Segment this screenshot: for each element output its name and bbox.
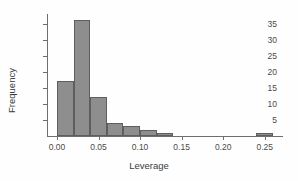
histogram-bar — [107, 123, 124, 136]
x-axis-title-text: Leverage — [129, 160, 169, 171]
x-tick-label: 0.10 — [132, 143, 149, 152]
y-axis-title: Frequency — [4, 0, 18, 181]
y-tick-mark — [43, 56, 47, 57]
y-tick-label: 20 — [268, 68, 277, 77]
y-tick-mark — [43, 72, 47, 73]
x-tick-label: 0.15 — [173, 143, 190, 152]
y-tick-mark — [43, 40, 47, 41]
x-tick-label: 0.05 — [90, 143, 107, 152]
x-tick-mark — [265, 136, 266, 140]
x-tick-mark — [57, 136, 58, 140]
x-tick-label: 0.20 — [215, 143, 232, 152]
y-tick-mark — [43, 104, 47, 105]
plot-area: 5101520253035 — [47, 14, 283, 136]
y-tick-label: 35 — [268, 19, 277, 28]
histogram-bar — [90, 97, 107, 136]
x-axis-ticks: 0.000.050.100.150.200.25 — [47, 136, 283, 137]
y-tick-mark — [43, 24, 47, 25]
y-tick-label: 5 — [272, 116, 277, 125]
x-tick-mark — [223, 136, 224, 140]
y-axis-title-text: Frequency — [6, 68, 17, 113]
histogram-bar — [57, 81, 74, 136]
histogram-bar — [123, 126, 140, 136]
histogram-bar — [74, 20, 91, 136]
y-tick-label: 15 — [268, 84, 277, 93]
x-tick-mark — [182, 136, 183, 140]
bars-container — [47, 14, 283, 136]
y-tick-label: 10 — [268, 100, 277, 109]
x-tick-mark — [140, 136, 141, 140]
x-axis-title: Leverage — [0, 160, 298, 171]
x-tick-mark — [99, 136, 100, 140]
y-tick-label: 30 — [268, 35, 277, 44]
x-tick-label: 0.25 — [256, 143, 273, 152]
y-tick-mark — [43, 120, 47, 121]
y-tick-mark — [43, 88, 47, 89]
histogram-figure: Frequency 5101520253035 0.000.050.100.15… — [0, 0, 298, 181]
y-tick-label: 25 — [268, 51, 277, 60]
x-tick-label: 0.00 — [49, 143, 66, 152]
